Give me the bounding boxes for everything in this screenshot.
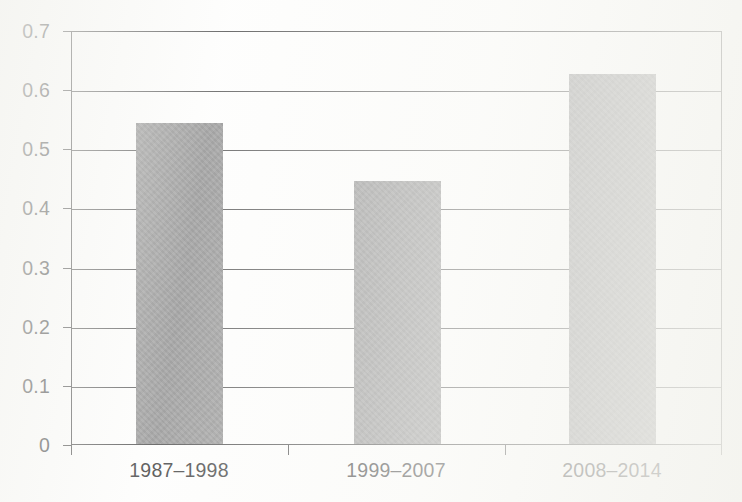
x-tick-label-1987-1998: 1987–1998 [129, 459, 228, 482]
y-tick-mark-0.4 [63, 208, 71, 209]
y-tick-mark-0.1 [63, 386, 71, 387]
bar-1999-2007 [354, 181, 441, 444]
plot-area [71, 31, 722, 445]
y-tick-label-0: 0 [39, 434, 50, 457]
y-tick-mark-0 [63, 445, 71, 446]
x-tick-mark-1 [288, 445, 289, 455]
y-tick-label-0.2: 0.2 [22, 315, 50, 338]
y-axis: 0.7 0.6 0.5 0.4 0.3 0.2 0.1 0 [0, 0, 64, 502]
y-tick-label-0.3: 0.3 [22, 256, 50, 279]
bar-chart: 0.7 0.6 0.5 0.4 0.3 0.2 0.1 0 1987–1998 … [0, 0, 742, 502]
y-tick-label-0.1: 0.1 [22, 374, 50, 397]
y-tick-mark-0.3 [63, 268, 71, 269]
x-axis: 1987–1998 1999–2007 2008–2014 [71, 459, 722, 493]
y-tick-label-0.6: 0.6 [22, 79, 50, 102]
y-tick-mark-0.5 [63, 149, 71, 150]
bar-2008-2014 [569, 74, 656, 444]
x-tick-mark-left [71, 445, 72, 455]
x-tick-mark-right [721, 445, 722, 455]
x-axis-ticks [71, 445, 722, 457]
y-tick-mark-0.6 [63, 90, 71, 91]
y-tick-label-0.7: 0.7 [22, 20, 50, 43]
x-tick-label-1999-2007: 1999–2007 [346, 459, 445, 482]
y-tick-label-0.5: 0.5 [22, 138, 50, 161]
y-tick-mark-0.7 [63, 31, 71, 32]
y-tick-mark-0.2 [63, 327, 71, 328]
x-tick-mark-2 [505, 445, 506, 455]
y-tick-label-0.4: 0.4 [22, 197, 50, 220]
bar-1987-1998 [136, 123, 223, 444]
x-tick-label-2008-2014: 2008–2014 [562, 459, 661, 482]
